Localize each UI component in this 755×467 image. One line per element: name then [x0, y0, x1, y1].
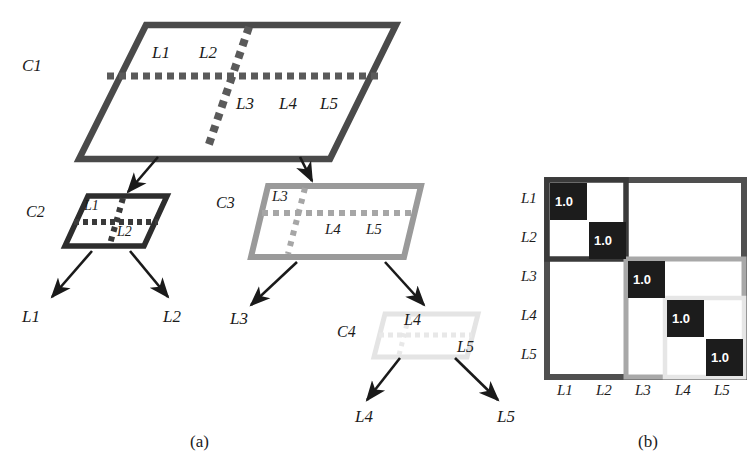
edge-c2-l1	[52, 251, 92, 297]
matrix-col-label-l3: L3	[635, 383, 651, 398]
edge-c4-l4	[367, 358, 400, 400]
edge-c3-c4	[385, 262, 424, 305]
c2-inner-label-l1: L1	[84, 199, 99, 213]
c3-inner-label-l4: L4	[325, 222, 341, 237]
c1-inner-label-l4: L4	[279, 95, 297, 112]
cluster-shape-c2	[65, 196, 167, 246]
c1-inner-label-l1: L1	[152, 44, 170, 61]
matrix-col-label-l2: L2	[596, 383, 612, 398]
leaf-label-l3: L3	[230, 310, 248, 327]
panel-caption-b: (b)	[638, 432, 658, 452]
leaf-label-l1: L1	[22, 308, 40, 325]
c2-inner-label-l2: L2	[117, 225, 132, 239]
matrix-col-label-l5: L5	[714, 383, 730, 398]
edge-c3-l3	[251, 262, 297, 305]
matrix-cell-value-l2-l2: 1.0	[594, 234, 612, 247]
matrix-cell-value-l4-l4: 1.0	[672, 312, 690, 325]
c1-inner-label-l2: L2	[199, 44, 217, 61]
matrix-cell-value-l3-l3: 1.0	[633, 273, 651, 286]
cluster-label-c3: C3	[216, 195, 235, 211]
c1-inner-label-l3: L3	[236, 95, 254, 112]
panel-caption-a: (a)	[190, 432, 209, 452]
cluster-shape-c1	[79, 25, 396, 159]
matrix-row-label-l2: L2	[521, 230, 537, 245]
matrix-row-label-l5: L5	[521, 347, 537, 362]
leaf-label-l5: L5	[497, 408, 515, 425]
cluster-label-c4: C4	[337, 324, 356, 340]
matrix-row-label-l1: L1	[521, 191, 537, 206]
matrix-col-label-l4: L4	[675, 383, 691, 398]
matrix-col-label-l1: L1	[557, 383, 573, 398]
c4-inner-label-l5: L5	[457, 339, 474, 355]
c4-inner-label-l4: L4	[404, 312, 421, 328]
leaf-label-l4: L4	[355, 408, 373, 425]
c3-inner-label-l5: L5	[366, 222, 382, 237]
edge-c2-l2	[130, 251, 168, 297]
matrix-row-label-l3: L3	[521, 269, 537, 284]
cluster-label-c2: C2	[26, 204, 45, 220]
c3-inner-label-l3: L3	[272, 189, 288, 204]
edge-c4-l5	[455, 358, 498, 400]
cluster-label-c1: C1	[22, 57, 42, 74]
matrix-row-label-l4: L4	[521, 308, 537, 323]
figure-root: C1 L1 L2 L3 L4 L5 C2 L1 L2 C3 L3 L4 L5 C…	[0, 0, 755, 467]
matrix-cell-value-l1-l1: 1.0	[555, 195, 573, 208]
matrix-cell-value-l5-l5: 1.0	[711, 351, 729, 364]
leaf-label-l2: L2	[163, 308, 181, 325]
c1-inner-label-l5: L5	[320, 95, 338, 112]
